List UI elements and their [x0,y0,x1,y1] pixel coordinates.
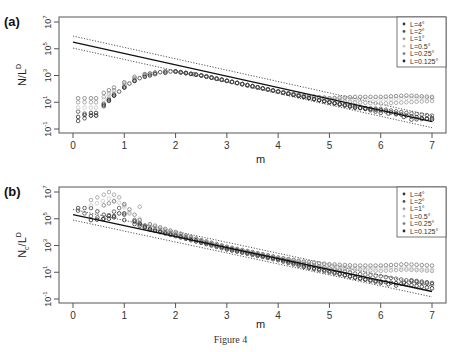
data-point [83,96,87,100]
series-L4 [76,70,433,123]
upper-confidence-line [73,209,432,286]
data-point [89,198,93,202]
fit-line [73,215,432,292]
data-point [89,100,93,104]
x-tick-label: 7 [429,140,435,151]
data-point [128,82,132,86]
legend-marker-icon [403,207,406,210]
data-point [399,101,403,105]
data-point [210,76,214,80]
data-point [410,100,414,104]
data-point [389,101,393,105]
legend-marker-icon [403,215,406,218]
data-point [384,102,388,106]
data-point [95,201,99,205]
data-point [405,100,409,104]
data-point [199,74,203,78]
data-point [94,100,98,104]
data-point [138,205,142,209]
x-tick-label: 2 [173,140,179,151]
data-point [420,285,424,289]
x-tick-label: 0 [70,310,76,321]
legend-label: L=2° [410,198,425,205]
data-point [102,204,106,208]
data-point [107,202,111,206]
x-axis-title: m [256,153,265,165]
data-point [251,84,255,88]
data-point [83,206,87,210]
data-point [112,210,116,214]
data-point [117,206,121,210]
y-axis-title: N/LD [15,64,28,86]
data-point [94,106,98,110]
data-point [353,276,357,280]
data-point [276,90,280,94]
x-tick-label: 1 [122,310,128,321]
data-point [369,101,373,105]
legend-label: L=1° [410,205,425,212]
data-point [430,287,434,291]
legend-label: L=0.25° [410,220,435,227]
data-point [405,262,409,266]
x-tick-label: 4 [275,310,281,321]
figure-caption: Figure 4 [0,334,461,345]
x-tick-label: 1 [122,140,128,151]
legend-label: L=0.125° [410,228,438,235]
y-tick-label: 107 [42,15,53,29]
data-point [102,193,106,197]
x-axis-title: m [256,318,265,330]
data-point [205,75,209,79]
data-point [117,90,121,94]
y-tick-label: 101 [42,95,53,109]
legend-label: L=4° [410,21,425,28]
data-point [76,119,80,123]
series-L0.25 [102,200,434,268]
data-point [420,113,424,117]
x-tick-label: 4 [275,140,281,151]
panel-a: (a)10710510310110-1N/LD01234567mL=4°L=2°… [4,14,446,165]
legend-label: L=4° [410,191,425,198]
data-point [94,96,98,100]
fit-line [73,42,432,122]
legend-marker-icon [403,37,406,40]
x-tick-label: 6 [378,310,384,321]
legend-label: L=0.5° [410,43,431,50]
data-point [89,214,93,218]
data-point [102,91,106,95]
y-tick-label: 103 [42,238,53,252]
data-point [107,197,111,201]
data-point [117,196,121,200]
data-point [89,96,93,100]
y-tick-label: 103 [42,68,53,82]
legend-marker-icon [403,230,406,233]
figure-4: (a)10710510310110-1N/LD01234567mL=4°L=2°… [0,0,461,334]
y-tick-label: 10-1 [42,291,53,307]
data-point [323,99,327,103]
series-L2 [76,206,433,286]
data-point [266,88,270,92]
x-tick-label: 7 [429,310,435,321]
data-point [96,210,100,214]
data-point [389,276,393,280]
data-point [215,77,219,81]
data-point [158,70,162,74]
x-tick-label: 0 [70,140,76,151]
data-point [425,113,429,117]
series-L0.125 [89,212,434,291]
x-tick-label: 2 [173,310,179,321]
data-point [76,115,80,119]
y-tick-label: 101 [42,265,53,279]
data-point [117,212,121,216]
data-point [83,106,87,110]
data-point [76,106,80,110]
data-point [364,273,368,277]
data-point [76,100,80,104]
data-point [394,263,398,267]
x-tick-label: 5 [327,310,333,321]
data-point [101,199,105,203]
data-point [261,87,265,91]
x-tick-label: 3 [224,140,230,151]
legend-marker-icon [403,23,406,26]
x-tick-label: 3 [224,310,230,321]
data-point [369,273,373,277]
